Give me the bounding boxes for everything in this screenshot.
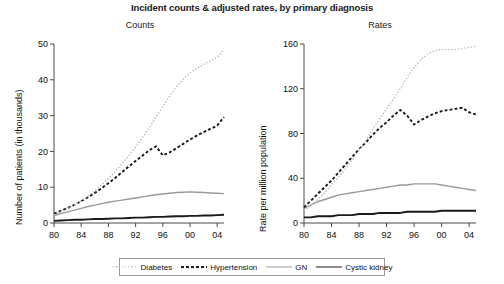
panel-title-rates: Rates bbox=[300, 20, 460, 30]
legend-item-diabetes[interactable]: Diabetes bbox=[112, 263, 173, 272]
svg-text:80: 80 bbox=[49, 230, 59, 240]
svg-text:84: 84 bbox=[76, 230, 86, 240]
legend-item-cystic-kidney[interactable]: Cystic kidney bbox=[316, 263, 392, 272]
svg-text:04: 04 bbox=[212, 230, 222, 240]
legend-swatch-icon bbox=[112, 264, 138, 270]
chart-figure: Incident counts & adjusted rates, by pri… bbox=[0, 0, 504, 284]
plot-area-rates: 0408012016080848892960004 bbox=[270, 30, 480, 245]
svg-text:40: 40 bbox=[288, 173, 298, 183]
svg-text:00: 00 bbox=[185, 230, 195, 240]
svg-text:92: 92 bbox=[131, 230, 141, 240]
legend-swatch-icon bbox=[181, 264, 207, 270]
chart-legend: DiabetesHypertensionGNCystic kidney bbox=[119, 258, 385, 276]
svg-text:0: 0 bbox=[293, 218, 298, 228]
legend-item-hypertension[interactable]: Hypertension bbox=[181, 263, 257, 272]
y-axis-label-rates: Rate per million population bbox=[258, 125, 268, 232]
svg-text:80: 80 bbox=[299, 230, 309, 240]
svg-text:120: 120 bbox=[283, 84, 298, 94]
svg-text:0: 0 bbox=[43, 218, 48, 228]
svg-text:50: 50 bbox=[38, 39, 48, 49]
svg-text:160: 160 bbox=[283, 39, 298, 49]
page-title: Incident counts & adjusted rates, by pri… bbox=[0, 2, 504, 13]
svg-text:00: 00 bbox=[437, 230, 447, 240]
legend-swatch-icon bbox=[266, 264, 292, 270]
svg-text:40: 40 bbox=[38, 75, 48, 85]
svg-text:96: 96 bbox=[158, 230, 168, 240]
svg-text:92: 92 bbox=[382, 230, 392, 240]
y-axis-label-counts: Number of patients (in thousands) bbox=[14, 89, 24, 225]
svg-text:80: 80 bbox=[288, 129, 298, 139]
legend-label: Diabetes bbox=[141, 263, 173, 272]
legend-label: Hypertension bbox=[210, 263, 257, 272]
svg-text:04: 04 bbox=[464, 230, 474, 240]
legend-label: Cystic kidney bbox=[345, 263, 392, 272]
legend-swatch-icon bbox=[316, 264, 342, 270]
legend-item-gn[interactable]: GN bbox=[266, 263, 307, 272]
svg-text:88: 88 bbox=[354, 230, 364, 240]
panel-title-counts: Counts bbox=[60, 20, 220, 30]
svg-text:10: 10 bbox=[38, 182, 48, 192]
svg-text:30: 30 bbox=[38, 111, 48, 121]
legend-label: GN bbox=[295, 263, 307, 272]
svg-text:88: 88 bbox=[103, 230, 113, 240]
plot-area-counts: 0102030405080848892960004 bbox=[28, 30, 228, 245]
svg-text:96: 96 bbox=[409, 230, 419, 240]
svg-text:84: 84 bbox=[327, 230, 337, 240]
svg-text:20: 20 bbox=[38, 147, 48, 157]
